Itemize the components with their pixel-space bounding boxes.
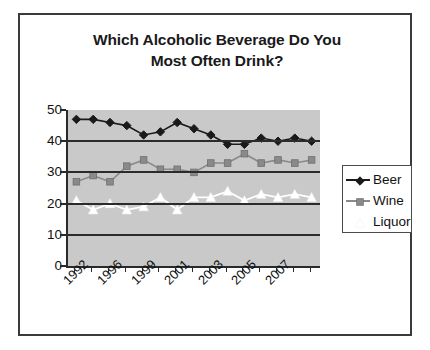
square-marker (292, 160, 299, 167)
plot-area (66, 110, 320, 266)
legend-label: Beer (373, 173, 402, 187)
diamond-marker (354, 175, 366, 187)
legend-marker (343, 170, 373, 190)
series-wine (73, 150, 315, 185)
y-tick-label: 40 (36, 136, 62, 146)
x-tick-mark (91, 266, 92, 272)
triangle-marker (156, 193, 166, 202)
square-marker (357, 199, 364, 206)
x-tick-mark (192, 266, 193, 272)
square-marker (140, 157, 147, 164)
diamond-marker (356, 177, 364, 185)
legend-label: Wine (373, 194, 404, 208)
x-tick-mark (125, 266, 126, 272)
x-axis: 1992199619992001200320052007 (20, 271, 414, 331)
y-tick-mark (60, 109, 66, 111)
y-tick-label: 20 (36, 199, 62, 209)
series-liquor (72, 186, 317, 214)
y-tick-mark (60, 265, 66, 267)
x-tick-mark (74, 266, 75, 272)
chart-title: Which Alcoholic Beverage Do You Most Oft… (38, 29, 396, 71)
legend-item-wine[interactable]: Wine (343, 190, 411, 212)
x-tick-mark (158, 266, 159, 272)
series-layer (68, 110, 320, 266)
gridline (68, 234, 320, 236)
diamond-marker (207, 131, 215, 139)
diamond-marker (123, 121, 131, 129)
x-tick-mark (209, 266, 210, 272)
legend-marker (343, 212, 373, 232)
square-marker (124, 163, 131, 170)
y-tick-label: 30 (36, 167, 62, 177)
y-axis: 01020304050 (30, 110, 62, 266)
y-tick-mark (60, 140, 66, 142)
y-tick-mark (60, 234, 66, 236)
x-tick-mark (242, 266, 243, 272)
triangle-marker (223, 186, 233, 195)
x-tick-mark (259, 266, 260, 272)
chart-title-line-2: Most Often Drink? (38, 50, 396, 71)
diamond-marker (190, 125, 198, 133)
diamond-marker (89, 115, 97, 123)
y-tick-label: 10 (36, 230, 62, 240)
chart-figure: Which Alcoholic Beverage Do You Most Oft… (18, 13, 412, 336)
square-marker (73, 178, 80, 185)
square-marker (224, 160, 231, 167)
x-tick-mark (310, 266, 311, 272)
y-tick-mark (60, 203, 66, 205)
triangle-marker (355, 218, 365, 227)
square-marker (241, 150, 248, 157)
gridline (68, 203, 320, 205)
x-tick-mark (175, 266, 176, 272)
x-tick-mark (108, 266, 109, 272)
square-marker (308, 157, 315, 164)
x-tick-mark (226, 266, 227, 272)
series-beer (72, 115, 316, 148)
y-tick-mark (60, 171, 66, 173)
diamond-marker (106, 118, 114, 126)
legend-marker (343, 191, 373, 211)
square-marker (354, 196, 366, 208)
chart-legend: BeerWineLiquor (342, 165, 412, 233)
legend-item-liquor[interactable]: Liquor (343, 211, 411, 233)
square-marker (258, 160, 265, 167)
square-marker (275, 157, 282, 164)
diamond-marker (139, 131, 147, 139)
triangle-marker (290, 189, 300, 198)
gridline (68, 140, 320, 142)
diamond-marker (173, 118, 181, 126)
y-tick-label: 0 (36, 261, 62, 271)
diamond-marker (72, 115, 80, 123)
diamond-marker (156, 128, 164, 136)
x-tick-mark (142, 266, 143, 272)
x-tick-mark (276, 266, 277, 272)
x-tick-mark (293, 266, 294, 272)
legend-item-beer[interactable]: Beer (343, 169, 411, 191)
chart-title-line-1: Which Alcoholic Beverage Do You (38, 29, 396, 50)
triangle-marker (256, 189, 266, 198)
y-tick-label: 50 (36, 105, 62, 115)
gridline (68, 171, 320, 173)
triangle-marker (354, 217, 366, 229)
square-marker (107, 178, 114, 185)
square-marker (208, 160, 215, 167)
legend-label: Liquor (373, 215, 411, 229)
